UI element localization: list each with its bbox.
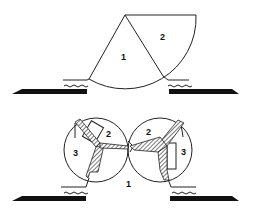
- triangle-right-edge: [125, 15, 163, 76]
- bottom-right-label-region2: 2: [146, 127, 151, 137]
- top-label-region2: 2: [160, 32, 165, 42]
- left-water-wave: [64, 85, 88, 87]
- right-base-block: [169, 89, 239, 94]
- bottom-left-water-wave: [64, 192, 88, 194]
- left-hatched-stem: [86, 145, 104, 178]
- left-hatched-bridge: [100, 143, 128, 149]
- top-label-region1: 1: [121, 52, 126, 62]
- right-rect-block: [167, 143, 176, 169]
- left-base-block: [12, 89, 87, 94]
- bottom-right-label-region3: 3: [181, 147, 186, 157]
- top-panel: [63, 15, 196, 89]
- bottom-left-base-block: [12, 196, 86, 201]
- triangle-left-edge: [89, 15, 125, 79]
- bottom-center-label-region1: 1: [126, 179, 131, 189]
- right-hatched-stem: [158, 146, 169, 180]
- bottom-right-base-block: [170, 196, 239, 201]
- diagram-canvas: 1 2 2 3 2 3: [0, 0, 258, 214]
- bottom-left-label-region3: 3: [73, 148, 78, 158]
- right-water-wave: [168, 85, 192, 87]
- bottom-left-label-region2: 2: [106, 129, 111, 139]
- bottom-right-water-wave: [172, 192, 196, 194]
- sector-arc: [89, 15, 196, 89]
